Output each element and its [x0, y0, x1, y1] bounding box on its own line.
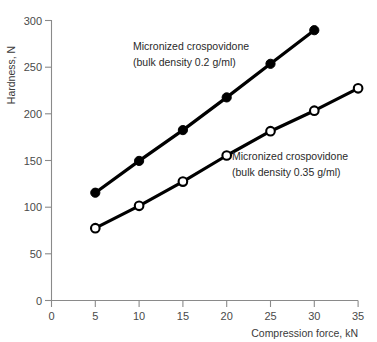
series-1-point-15 [178, 126, 187, 135]
x-tick-label-0: 0 [48, 310, 54, 322]
y-tick-label-300: 300 [24, 15, 42, 27]
x-tick-label-10: 10 [133, 310, 145, 322]
y-axis-tick-labels: 0 50 100 150 200 250 300 [24, 15, 42, 307]
series-2-point-10 [135, 202, 144, 211]
x-tick-label-30: 30 [308, 310, 320, 322]
x-axis-ticks [52, 301, 359, 308]
y-tick-label-100: 100 [24, 201, 42, 213]
y-tick-label-50: 50 [30, 248, 42, 260]
x-axis-title: Compression force, kN [251, 327, 358, 339]
series-1-point-5 [91, 188, 100, 197]
hardness-vs-compression-force-chart: 0 50 100 150 200 250 300 0 5 10 15 20 25 [0, 0, 377, 342]
series-1-point-30 [310, 26, 319, 35]
y-tick-label-0: 0 [36, 295, 42, 307]
annotation-series-1: Micronized crospovidone (bulk density 0.… [133, 40, 249, 68]
chart-plot-area: 0 50 100 150 200 250 300 0 5 10 15 20 25 [0, 0, 377, 342]
y-axis-ticks [45, 21, 52, 301]
x-tick-label-5: 5 [92, 310, 98, 322]
series-2-point-35 [354, 84, 363, 93]
series-2-point-20 [222, 151, 231, 160]
series-2-point-30 [310, 106, 319, 115]
x-tick-label-20: 20 [221, 310, 233, 322]
x-axis-tick-labels: 0 5 10 15 20 25 30 35 [48, 310, 364, 322]
series-1-point-10 [135, 156, 144, 165]
x-tick-label-25: 25 [264, 310, 276, 322]
x-tick-label-15: 15 [177, 310, 189, 322]
y-tick-label-150: 150 [24, 155, 42, 167]
annotation-series-2: Micronized crospovidone (bulk density 0.… [232, 150, 348, 178]
series-1-point-20 [222, 93, 231, 102]
series-1-point-25 [266, 59, 275, 68]
y-tick-label-250: 250 [24, 61, 42, 73]
series-2-point-15 [179, 177, 188, 186]
annotation-1-line-2: (bulk density 0.2 g/ml) [133, 56, 236, 68]
series-2-point-25 [266, 127, 275, 136]
annotation-2-line-1: Micronized crospovidone [232, 150, 348, 162]
annotation-2-line-2: (bulk density 0.35 g/ml) [232, 166, 341, 178]
series-2-point-5 [91, 224, 100, 233]
x-tick-label-35: 35 [352, 310, 364, 322]
y-axis-title: Hardness, N [5, 46, 17, 104]
y-tick-label-200: 200 [24, 108, 42, 120]
annotation-1-line-1: Micronized crospovidone [133, 40, 249, 52]
